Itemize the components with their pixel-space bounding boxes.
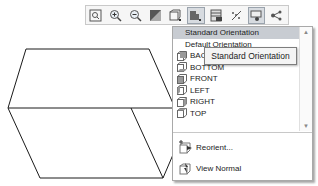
- section-view-icon: [149, 9, 162, 22]
- apply-scene-button[interactable]: [268, 7, 285, 24]
- view-settings-icon: [250, 9, 263, 22]
- reorient-icon: [179, 140, 193, 154]
- list-scrollbar[interactable]: ▲ ▼: [299, 27, 312, 131]
- bottom-view-icon: [177, 62, 187, 72]
- scroll-down-arrow-icon[interactable]: ▼: [303, 123, 309, 129]
- list-item-standard-orientation[interactable]: Standard Orientation: [173, 27, 300, 39]
- section-view-button[interactable]: [147, 7, 164, 24]
- right-view-icon: [177, 97, 187, 107]
- standard-views-icon: [189, 9, 202, 22]
- view-toolbar: [85, 5, 289, 25]
- box-model: [8, 49, 175, 178]
- hide-show-icon: [230, 9, 243, 22]
- orientation-list: Standard Orientation Default Orientation…: [173, 27, 300, 131]
- view-orientation-icon: [169, 9, 182, 22]
- left-view-icon: [177, 85, 187, 95]
- view-normal-icon: [179, 161, 193, 175]
- zoom-to-fit-icon: [89, 9, 102, 22]
- list-item-front[interactable]: FRONT: [173, 73, 300, 85]
- display-style-icon: [210, 9, 223, 22]
- zoom-in-icon: [109, 9, 122, 22]
- zoom-out-icon: [129, 9, 142, 22]
- reorient-button[interactable]: Reorient...: [179, 140, 233, 154]
- list-item-top[interactable]: TOP: [173, 108, 300, 120]
- zoom-in-button[interactable]: [107, 7, 124, 24]
- front-view-icon: [177, 74, 187, 84]
- tooltip: Standard Orientation: [204, 47, 297, 65]
- back-view-icon: [177, 51, 187, 61]
- hide-show-button[interactable]: [228, 7, 245, 24]
- scroll-up-arrow-icon[interactable]: ▲: [303, 29, 309, 35]
- display-style-button[interactable]: [208, 7, 225, 24]
- list-item-left[interactable]: LEFT: [173, 85, 300, 97]
- zoom-to-fit-button[interactable]: [87, 7, 104, 24]
- view-orientation-button[interactable]: [167, 7, 184, 24]
- zoom-out-button[interactable]: [127, 7, 144, 24]
- view-settings-button[interactable]: [248, 7, 265, 24]
- apply-scene-icon: [270, 9, 283, 22]
- view-normal-button[interactable]: View Normal: [179, 161, 241, 175]
- divider: [173, 132, 312, 133]
- standard-views-button[interactable]: [187, 7, 204, 24]
- top-view-icon: [177, 108, 187, 118]
- list-item-right[interactable]: RIGHT: [173, 96, 300, 108]
